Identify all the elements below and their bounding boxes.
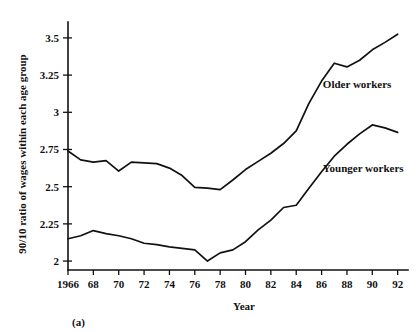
y-tick-label-2.5: 2.5 [45,181,59,193]
line-chart: 22.252.52.7533.253.519666870727476788082… [0,0,418,332]
y-tick-label-2: 2 [54,255,60,267]
x-tick-label-84: 84 [291,278,303,290]
x-tick-label-1966: 1966 [57,278,80,290]
x-tick-label-78: 78 [215,278,227,290]
x-tick-label-68: 68 [88,278,100,290]
x-tick-label-92: 92 [392,278,404,290]
y-tick-label-3.25: 3.25 [40,69,60,81]
chart-figure: 22.252.52.7533.253.519666870727476788082… [0,0,418,332]
y-tick-label-2.75: 2.75 [40,143,60,155]
x-tick-label-90: 90 [367,278,379,290]
series-line-younger-workers [68,125,398,261]
series-label-older-workers: Older workers [323,78,392,90]
x-tick-label-70: 70 [113,278,125,290]
y-tick-label-2.25: 2.25 [40,218,60,230]
panel-label: (a) [72,316,85,329]
x-tick-label-76: 76 [189,278,201,290]
x-tick-label-72: 72 [139,278,151,290]
series-label-younger-workers: Younger workers [323,162,404,174]
y-axis-title: 90/10 ratio of wages within each age gro… [16,54,28,253]
x-axis-title: Year [233,300,255,312]
y-tick-label-3: 3 [54,106,60,118]
x-tick-label-82: 82 [265,278,277,290]
x-tick-label-80: 80 [240,278,252,290]
x-tick-label-88: 88 [341,278,353,290]
x-tick-label-74: 74 [164,278,176,290]
y-tick-label-3.5: 3.5 [45,32,59,44]
x-tick-label-86: 86 [316,278,328,290]
